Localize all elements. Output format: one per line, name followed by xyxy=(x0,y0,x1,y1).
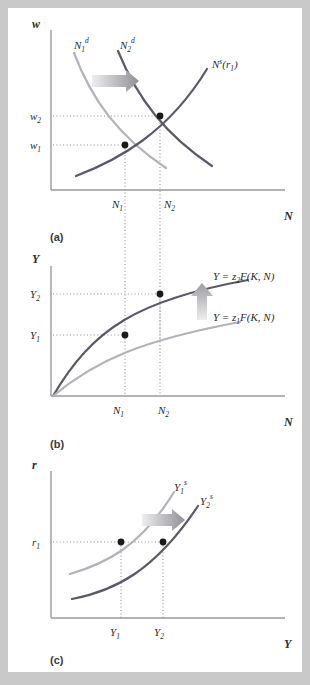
panel-b-x-tick-n1: N1 xyxy=(112,404,124,419)
panel-a-labor-supply-label: Ns(r1) xyxy=(211,57,238,73)
panel-a-x-tick-n1: N1 xyxy=(111,198,123,213)
panel-a-y-tick-w1: w1 xyxy=(30,139,41,154)
panel-b-x-tick-n2: N2 xyxy=(157,404,169,419)
panel-a-x-tick-n2: N2 xyxy=(163,198,175,213)
panel-a-shift-right-arrow xyxy=(92,70,139,92)
panel-c: r Y Y1s Y2s r1 xyxy=(32,458,293,666)
panel-b-y-tick-y1: Y1 xyxy=(30,329,40,344)
panel-b-output-point-2 xyxy=(157,291,164,298)
panel-c-y-axis-label: r xyxy=(32,458,37,472)
panel-c-output-supply-2-label: Y2s xyxy=(200,492,213,510)
panel-c-output-supply-1-label: Y1s xyxy=(174,478,187,496)
panel-b-production-z2-curve xyxy=(53,280,248,396)
panel-c-x-tick-y1: Y1 xyxy=(110,626,120,641)
panel-c-id: (c) xyxy=(50,654,64,666)
panel-b-production-z2-label: Y = z2F(K, N) xyxy=(213,270,275,285)
panel-b-production-z1-curve xyxy=(53,322,240,396)
panel-a-y-tick-w2: w2 xyxy=(30,110,41,125)
panel-c-supply-point-1 xyxy=(118,539,125,546)
figure-panel: w N N1d N2d xyxy=(8,8,302,672)
panel-a-equilibrium-point-2 xyxy=(157,113,164,120)
panel-c-x-axis-label: Y xyxy=(284,637,293,651)
panel-c-output-supply-1-curve xyxy=(70,492,174,574)
panel-c-y-tick-r1: r1 xyxy=(32,536,40,551)
economics-figure-svg: w N N1d N2d xyxy=(8,8,302,672)
panel-a-x-axis-label: N xyxy=(283,209,294,223)
panel-a-y-axis-label: w xyxy=(32,17,41,31)
panel-b-y-axis-label: Y xyxy=(32,252,41,266)
panel-a-id: (a) xyxy=(50,231,64,243)
panel-c-supply-point-2 xyxy=(160,539,167,546)
panel-c-x-tick-y2: Y2 xyxy=(154,626,164,641)
panel-b: Y N Y = z2F(K, N) Y = z1F(K, N) xyxy=(30,252,294,450)
panel-b-y-tick-y2: Y2 xyxy=(30,288,40,303)
panel-a-labor-demand-2-label: N2d xyxy=(119,36,135,54)
panel-b-id: (b) xyxy=(50,438,64,450)
panel-a-labor-demand-1-label: N1d xyxy=(73,36,89,54)
panel-a: w N N1d N2d xyxy=(30,17,294,338)
panel-b-production-z1-label: Y = z1F(K, N) xyxy=(213,311,275,326)
panel-a-equilibrium-point-1 xyxy=(122,142,129,149)
panel-b-output-point-1 xyxy=(122,332,129,339)
panel-b-x-axis-label: N xyxy=(283,415,294,429)
